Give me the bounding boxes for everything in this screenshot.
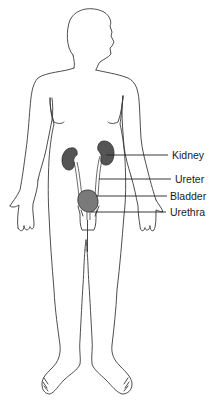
crotch-outline [85, 240, 87, 250]
right-hand-outline [131, 176, 163, 231]
left-hand-outline [10, 180, 38, 231]
ureter-label: Ureter [175, 173, 204, 185]
urethra-label: Urethra [170, 206, 205, 218]
bladder-organ [78, 190, 98, 212]
urethra-tube [87, 212, 90, 220]
kidney-label: Kidney [172, 149, 204, 161]
right-toes [124, 378, 129, 391]
left-ureter [74, 162, 82, 196]
bladder-label: Bladder [170, 190, 206, 202]
neck-outline [73, 55, 74, 68]
right-torso-side [87, 96, 132, 394]
urinary-system-diagram: Kidney Ureter Bladder Urethra [0, 0, 214, 402]
right-kidney [98, 141, 114, 165]
torso-left-outline [10, 68, 74, 206]
left-toes [43, 378, 48, 391]
left-torso-side [42, 98, 85, 394]
right-inner-arm-outline [122, 96, 131, 176]
